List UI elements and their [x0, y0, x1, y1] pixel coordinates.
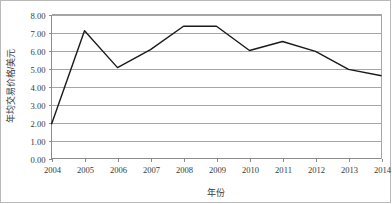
line-chart: 8.007.006.005.004.003.002.001.000.00 200…: [0, 0, 392, 204]
y-axis-tick-labels: 8.007.006.005.004.003.002.001.000.00: [30, 11, 45, 165]
y-tick-label: 5.00: [30, 65, 45, 75]
chart-figure: 8.007.006.005.004.003.002.001.000.00 200…: [0, 0, 392, 204]
y-tick-label: 6.00: [30, 47, 45, 57]
x-tick-label: 2011: [275, 165, 292, 175]
x-tick-label: 2006: [110, 165, 128, 175]
y-tick-label: 8.00: [30, 11, 45, 21]
y-tick-label: 2.00: [30, 119, 45, 129]
data-series-line: [52, 26, 382, 124]
series-line-年均交易价格: [52, 26, 382, 124]
x-tick-label: 2009: [209, 165, 226, 175]
y-tick-label: 7.00: [30, 29, 45, 39]
x-tick-label: 2014: [374, 165, 392, 175]
x-tick-label: 2007: [143, 165, 161, 175]
axis-tickmarks: [49, 16, 383, 162]
y-tick-label: 4.00: [30, 83, 45, 93]
y-tick-label: 3.00: [30, 101, 45, 111]
x-tick-label: 2010: [242, 165, 259, 175]
x-axis-title: 年份: [207, 187, 225, 198]
x-tick-label: 2013: [341, 165, 358, 175]
gridlines: [52, 16, 382, 142]
x-tick-label: 2012: [308, 165, 325, 175]
x-axis-tick-labels: 2004200520062007200820092010201120122013…: [44, 165, 392, 175]
x-tick-label: 2008: [176, 165, 193, 175]
x-tick-label: 2005: [77, 165, 94, 175]
y-tick-label: 1.00: [30, 137, 45, 147]
x-tick-label: 2004: [44, 165, 62, 175]
y-tick-label: 0.00: [30, 155, 45, 165]
plot-frame: [52, 15, 382, 159]
y-axis-title: 年均交易价格/美元: [5, 49, 16, 124]
